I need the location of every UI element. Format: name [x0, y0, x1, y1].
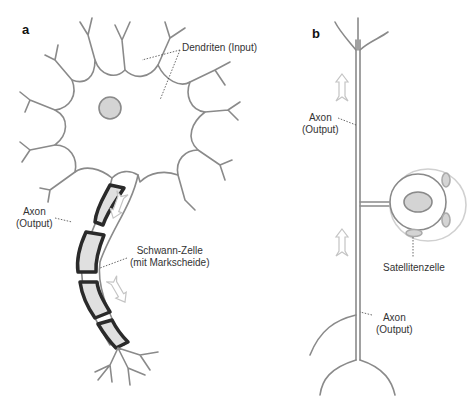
neuron-diagram — [0, 0, 473, 407]
signal-arrow-icon — [106, 276, 130, 305]
schwann-cell-label: Schwann-Zelle (mit Markscheide) — [130, 245, 209, 269]
panel-label-b: b — [312, 26, 320, 41]
axon-label-b-bottom: Axon (Output) — [376, 312, 413, 336]
axon-label-b-top: Axon (Output) — [302, 112, 339, 136]
axon-label-a: Axon (Output) — [16, 206, 53, 230]
multipolar-neuron — [20, 18, 240, 385]
satellite-cell-label: Satellitenzelle — [383, 262, 445, 274]
dendrites-label: Dendriten (Input) — [182, 42, 257, 54]
signal-arrow-icon — [336, 74, 348, 101]
signal-arrow-icon — [336, 229, 348, 256]
panel-label-a: a — [22, 22, 29, 37]
pseudounipolar-neuron — [310, 18, 466, 395]
